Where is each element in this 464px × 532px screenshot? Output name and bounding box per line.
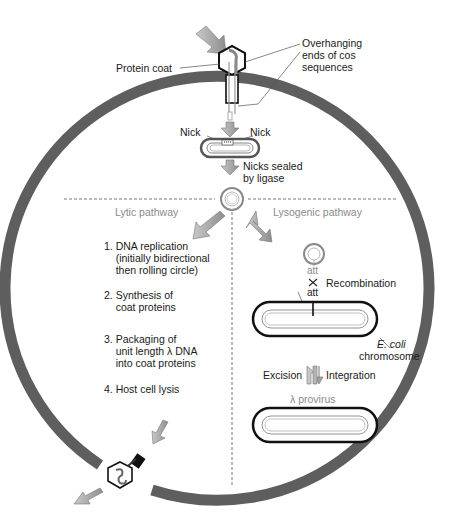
- step-number: 2.: [104, 289, 113, 301]
- protein-coat-label: Protein coat: [116, 62, 172, 74]
- recombination-cross-icon: [309, 279, 317, 286]
- step-number: 1.: [104, 240, 113, 252]
- lambda-provirus-chromosome: [253, 408, 377, 442]
- step-text: Packaging of unit length λ DNA into coat…: [116, 333, 198, 369]
- ecoli-chromosome: [253, 301, 377, 336]
- cos-ends-label: Overhanging ends of cos sequences: [302, 37, 362, 73]
- lytic-step-2: 2. Synthesis of coat proteins: [104, 289, 176, 313]
- chromosome-label: chromosome: [359, 350, 420, 362]
- step-number: 3.: [104, 333, 113, 345]
- lytic-pathway-label: Lytic pathway: [115, 206, 178, 218]
- step-text: DNA replication (initially bidirectional…: [116, 240, 210, 276]
- att-phage-label: att: [307, 265, 318, 277]
- sealed-circular-dna: [221, 188, 243, 210]
- excision-integration-arrows-icon: [307, 366, 323, 384]
- down-arrow-icon: [221, 122, 239, 137]
- nicks-sealed-label: Nicks sealed by ligase: [243, 160, 303, 184]
- lysogenic-pathway-label: Lysogenic pathway: [273, 206, 362, 218]
- released-phage-icon: [108, 453, 146, 488]
- nicked-dna-capsule: [201, 139, 259, 157]
- diagram-canvas: [0, 0, 464, 532]
- provirus-label: λ provirus: [290, 393, 336, 405]
- phage-circle-lysogenic: [304, 244, 324, 266]
- phage-exit-arrow-icon: [74, 488, 103, 504]
- integration-label: Integration: [326, 369, 376, 381]
- nick-left-label: Nick: [180, 126, 200, 138]
- lambda-life-cycle-diagram: Protein coat Overhanging ends of cos seq…: [0, 0, 464, 532]
- lytic-step-4: 4. Host cell lysis: [104, 383, 179, 395]
- lysogenic-double-arrow-icon: [246, 211, 272, 242]
- step-text: Synthesis of coat proteins: [116, 289, 176, 313]
- step-text: Host cell lysis: [116, 383, 180, 395]
- nick-right-label: Nick: [250, 126, 270, 138]
- recombination-label: Recombination: [326, 277, 396, 289]
- lysis-arrow-icon: [152, 420, 168, 444]
- excision-label: Excision: [263, 369, 302, 381]
- step-number: 4.: [104, 383, 113, 395]
- ligase-arrow-icon: [221, 160, 239, 175]
- lytic-step-1: 1. DNA replication (initially bidirectio…: [104, 240, 210, 276]
- att-bacterial-label: att: [307, 287, 318, 299]
- ecoli-label: E. coli: [377, 338, 406, 350]
- lytic-step-3: 3. Packaging of unit length λ DNA into c…: [104, 333, 197, 369]
- phage-entry-arrow-icon: [196, 26, 226, 54]
- lytic-arrow-icon: [193, 211, 225, 239]
